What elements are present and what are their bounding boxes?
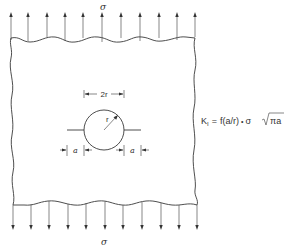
formula-dot: • [241, 118, 244, 125]
right-crack-label: a [130, 146, 135, 155]
formula-sqrt-content: πa [270, 116, 281, 126]
arrow-up-icon [175, 12, 178, 40]
arrow-up-icon [63, 12, 66, 41]
arrow-down-icon [177, 205, 180, 230]
arrow-down-icon [103, 201, 106, 230]
formula-equals: = [212, 116, 217, 126]
top-load-arrows [9, 12, 196, 42]
arrow-up-icon [157, 12, 160, 38]
arrow-down-icon [159, 203, 162, 230]
arrow-down-icon [66, 204, 69, 230]
arrow-down-icon [121, 205, 124, 230]
arrow-up-icon [193, 12, 196, 37]
arrow-down-icon [84, 203, 87, 230]
formula-sigma: σ [245, 116, 251, 126]
stress-concentration-diagram: σ r 2r [0, 0, 286, 247]
arrow-up-icon [119, 12, 122, 38]
arrow-down-icon [29, 204, 32, 230]
left-crack-label: a [73, 146, 78, 155]
arrow-down-icon [47, 201, 50, 230]
bottom-load-arrows [11, 201, 198, 230]
svg-text:KI=f(a/r)•σ: KI=f(a/r)•σ [201, 116, 251, 127]
radius-label: r [106, 115, 109, 124]
bottom-stress-label: σ [101, 237, 108, 247]
formula-function: f(a/r) [220, 116, 239, 126]
stress-intensity-formula: KI=f(a/r)•σ πa [201, 113, 284, 127]
formula-lhs-subscript: I [207, 121, 209, 127]
arrow-up-icon [45, 12, 48, 37]
arrow-up-icon [9, 12, 12, 40]
diameter-label: 2r [100, 90, 107, 99]
arrow-up-icon [81, 12, 84, 38]
plate-outline [10, 37, 197, 205]
arrow-down-icon [140, 202, 143, 230]
top-stress-label: σ [100, 2, 107, 12]
arrow-down-icon [195, 205, 198, 230]
arrow-down-icon [11, 205, 14, 230]
arrow-up-icon [26, 12, 29, 41]
